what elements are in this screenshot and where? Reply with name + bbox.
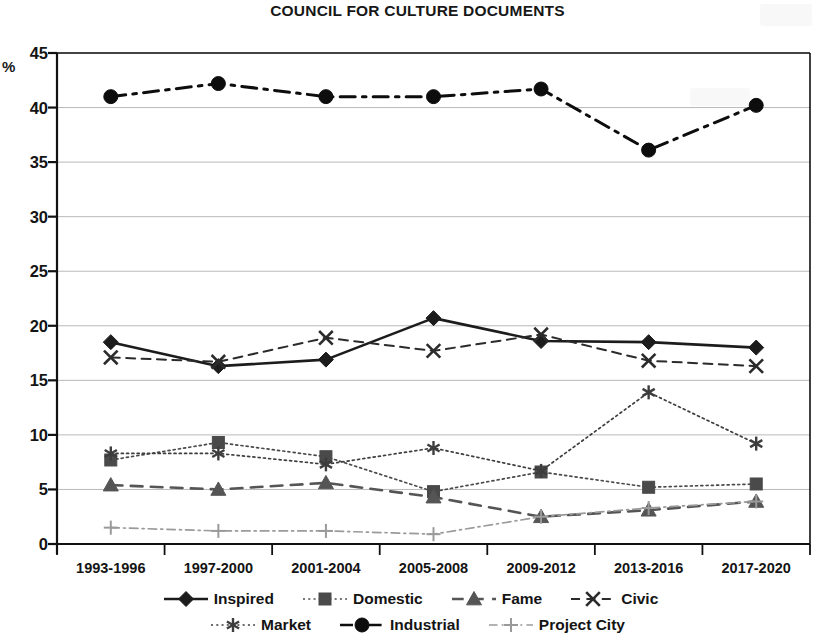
legend-swatch-triangle-icon [451, 591, 497, 607]
legend-item-domestic[interactable]: Domestic [302, 590, 423, 608]
legend-swatch-asterisk-icon [210, 617, 256, 633]
legend-swatch-diamond-icon [163, 591, 209, 607]
legend-swatch-square-icon [302, 591, 348, 607]
data-point-circle [319, 90, 333, 104]
legend-item-label: Inspired [214, 590, 274, 608]
data-point-circle [642, 143, 656, 157]
legend-item-label: Civic [621, 590, 658, 608]
legend-row-2: MarketIndustrialProject City [0, 612, 835, 638]
data-point-diamond [103, 335, 118, 350]
data-point-circle [749, 98, 763, 112]
data-point-x [642, 354, 656, 368]
data-point-circle [104, 90, 118, 104]
data-point-diamond [749, 340, 764, 355]
legend-item-civic[interactable]: Civic [570, 590, 658, 608]
gridlines [57, 53, 810, 489]
legend-swatch-plus-icon [488, 617, 534, 633]
series-civic [104, 328, 763, 373]
data-point-plus [504, 618, 518, 632]
data-point-plus [211, 524, 225, 538]
data-point-asterisk [750, 437, 762, 451]
legend-row-1: InspiredDomesticFameCivic [0, 586, 835, 612]
data-point-circle [427, 90, 441, 104]
data-point-plus [104, 521, 118, 535]
legend-item-fame[interactable]: Fame [451, 590, 543, 608]
legend-item-industrial[interactable]: Industrial [339, 616, 460, 634]
data-point-circle [534, 82, 548, 96]
series-market [105, 385, 763, 478]
legend-item-inspired[interactable]: Inspired [163, 590, 274, 608]
legend-swatch-circle-icon [339, 617, 385, 633]
legend-item-label: Project City [539, 616, 625, 634]
data-point-square [750, 478, 762, 490]
legend-item-label: Domestic [353, 590, 423, 608]
legend-item-label: Fame [502, 590, 543, 608]
chart-container: COUNCIL FOR CULTURE DOCUMENTS % 05101520… [0, 0, 835, 641]
series-fame [103, 475, 763, 522]
data-point-diamond [641, 335, 656, 350]
axis-lines [48, 53, 810, 555]
legend-item-label: Market [261, 616, 311, 634]
plot-area [0, 0, 835, 641]
data-point-asterisk [427, 441, 439, 455]
chart-legend: InspiredDomesticFameCivic MarketIndustri… [0, 586, 835, 638]
legend-item-label: Industrial [390, 616, 460, 634]
data-point-diamond [318, 352, 333, 367]
data-point-diamond [178, 592, 193, 607]
series-inspired [103, 311, 763, 374]
legend-item-market[interactable]: Market [210, 616, 311, 634]
data-point-plus [427, 527, 441, 541]
data-point-circle [355, 618, 369, 632]
data-point-plus [319, 524, 333, 538]
data-point-square [319, 593, 331, 605]
legend-swatch-x-icon [570, 591, 616, 607]
series-industrial [104, 77, 763, 158]
legend-item-project-city[interactable]: Project City [488, 616, 625, 634]
data-point-asterisk [643, 385, 655, 399]
data-point-diamond [426, 311, 441, 326]
data-point-circle [211, 77, 225, 91]
data-point-square [643, 481, 655, 493]
